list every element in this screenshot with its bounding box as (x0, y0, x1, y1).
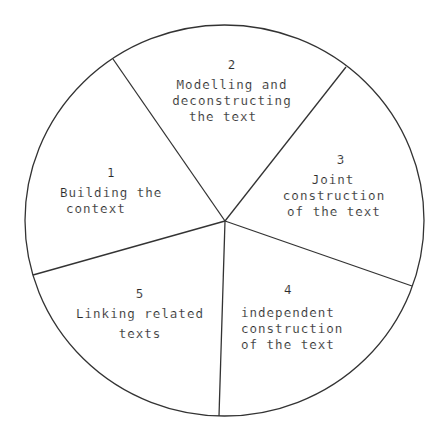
segment-4-line-1: independent (241, 305, 361, 321)
segment-2-label: 2 Modelling and deconstructing the text (160, 55, 304, 125)
divider-3-4 (225, 221, 412, 286)
segment-1-line-1: Building the (60, 185, 170, 201)
segment-5-label: 5 Linking related texts (70, 284, 210, 342)
segment-1-number: 1 (60, 163, 170, 183)
segment-2-line-1: Modelling and (160, 77, 304, 93)
segment-4-line-2: construction (241, 321, 361, 337)
segment-1-line-2: context (60, 201, 170, 217)
segment-4-label: 4 independent construction of the text (241, 280, 361, 353)
segment-5-number: 5 (70, 284, 210, 304)
segment-3-line-2: construction (276, 188, 392, 204)
segment-3-label: 3 Joint construction of the text (276, 150, 392, 220)
segment-2-line-2: deconstructing (160, 93, 304, 109)
divider-5-1 (33, 221, 225, 275)
segment-5-line-1: Linking related (70, 306, 210, 322)
segment-4-line-3: of the text (241, 337, 361, 353)
divider-4-5 (219, 221, 225, 416)
segment-2-number: 2 (160, 55, 304, 75)
segment-2-line-3: the text (160, 109, 304, 125)
segment-1-label: 1 Building the context (60, 163, 170, 217)
segment-5-line-2: texts (70, 326, 210, 342)
segment-4-number: 4 (241, 280, 361, 300)
segment-3-line-1: Joint (276, 172, 392, 188)
segment-3-line-3: of the text (276, 204, 392, 220)
segment-3-number: 3 (276, 150, 392, 170)
